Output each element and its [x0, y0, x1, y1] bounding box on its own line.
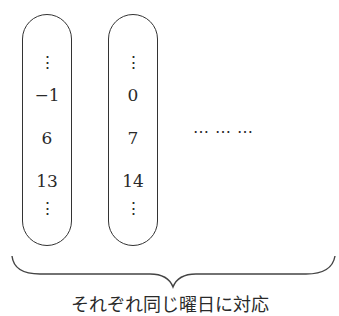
- caption-text: それぞれ同じ曜日に対応: [0, 290, 339, 316]
